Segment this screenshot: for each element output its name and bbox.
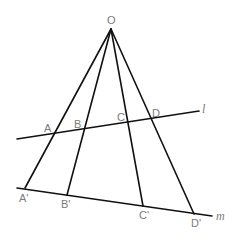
label-c: C	[117, 111, 125, 123]
label-d-prime: D'	[191, 217, 201, 229]
label-m: m	[216, 209, 225, 223]
label-a-prime: A'	[19, 192, 28, 204]
projection-diagram: O A B C D l A' B' C' D' m	[0, 0, 239, 243]
ray-o-a	[25, 29, 111, 188]
label-d: D	[152, 107, 160, 119]
label-b: B	[74, 118, 81, 130]
label-c-prime: C'	[139, 209, 149, 221]
label-o: O	[107, 14, 116, 26]
ray-o-c	[111, 29, 143, 206]
ray-o-b	[67, 29, 111, 195]
label-a: A	[44, 122, 52, 134]
label-l: l	[202, 102, 206, 116]
label-b-prime: B'	[61, 198, 70, 210]
line-m	[17, 188, 212, 216]
